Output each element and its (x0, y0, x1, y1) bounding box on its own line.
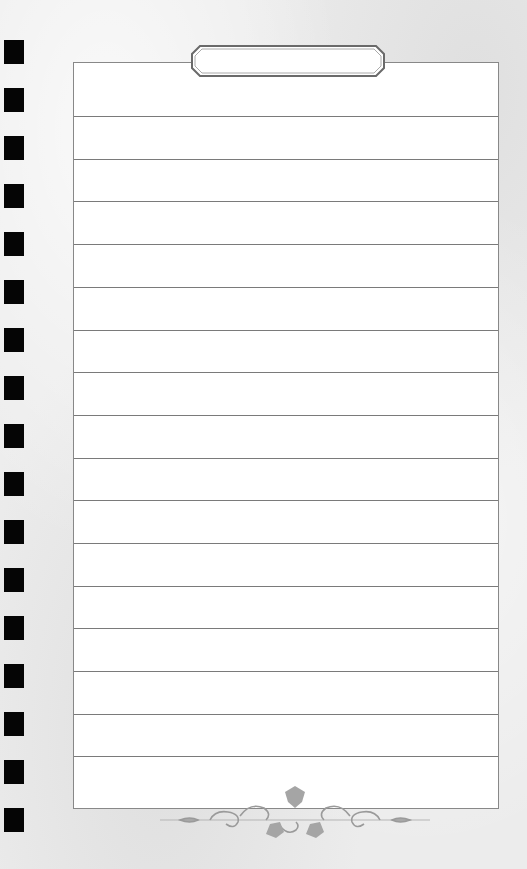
punch-hole (4, 136, 24, 160)
punch-hole (4, 280, 24, 304)
punch-hole (4, 520, 24, 544)
ruled-line (74, 244, 498, 245)
punch-hole (4, 40, 24, 64)
ruled-line (74, 756, 498, 757)
ruled-line (74, 201, 498, 202)
ruled-line (74, 671, 498, 672)
punch-hole (4, 808, 24, 832)
punch-hole (4, 328, 24, 352)
ruled-line (74, 714, 498, 715)
floral-vine-divider-icon (160, 780, 430, 840)
punch-hole (4, 424, 24, 448)
ruled-line (74, 586, 498, 587)
punch-hole (4, 472, 24, 496)
punch-hole (4, 376, 24, 400)
punch-hole (4, 616, 24, 640)
ruled-line (74, 458, 498, 459)
title-box[interactable] (190, 44, 386, 78)
ruled-line (74, 543, 498, 544)
punch-hole (4, 664, 24, 688)
punch-hole (4, 232, 24, 256)
lined-paper-panel[interactable] (73, 62, 499, 809)
ruled-line (74, 415, 498, 416)
ruled-line (74, 159, 498, 160)
punch-hole (4, 760, 24, 784)
ruled-line (74, 372, 498, 373)
ruled-line (74, 116, 498, 117)
ruled-line (74, 628, 498, 629)
punch-hole (4, 184, 24, 208)
punch-hole (4, 712, 24, 736)
punch-hole (4, 568, 24, 592)
ruled-line (74, 287, 498, 288)
punch-hole (4, 88, 24, 112)
ruled-line (74, 500, 498, 501)
ruled-line (74, 330, 498, 331)
